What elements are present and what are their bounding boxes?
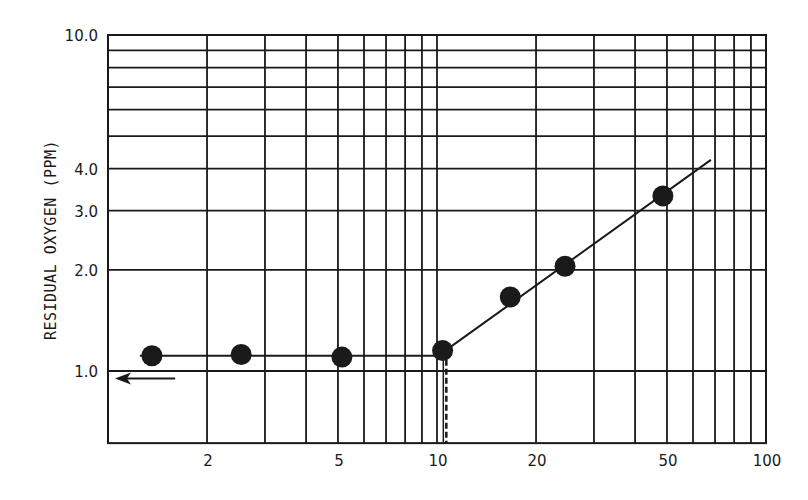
x-tick-label: 20	[527, 452, 546, 470]
y-tick-label: 10.0	[65, 27, 98, 45]
x-tick-label: 5	[334, 452, 344, 470]
fit-line	[445, 160, 711, 351]
y-axis-title: RESIDUAL OXYGEN (PPM)	[42, 140, 60, 340]
y-tick-labels: 1.02.03.04.010.0	[65, 27, 98, 381]
y-tick-label: 4.0	[74, 161, 98, 179]
data-point	[141, 345, 162, 366]
x-tick-label: 50	[658, 452, 677, 470]
x-tick-label: 10	[428, 452, 447, 470]
x-tick-label: 2	[203, 452, 213, 470]
data-point	[500, 287, 521, 308]
data-point	[555, 256, 576, 277]
chart-grid	[108, 35, 766, 443]
annotations	[115, 356, 446, 443]
y-tick-label: 2.0	[74, 262, 98, 280]
data-point	[231, 344, 252, 365]
fit-lines	[140, 160, 711, 356]
data-point	[331, 347, 352, 368]
log-log-chart: 25102050100 1.02.03.04.010.0 RESIDUAL OX…	[0, 0, 808, 500]
x-tick-label: 100	[753, 452, 782, 470]
y-tick-label: 1.0	[74, 363, 98, 381]
data-point	[652, 185, 673, 206]
y-tick-label: 3.0	[74, 203, 98, 221]
x-tick-labels: 25102050100	[203, 452, 781, 470]
data-point	[432, 340, 453, 361]
